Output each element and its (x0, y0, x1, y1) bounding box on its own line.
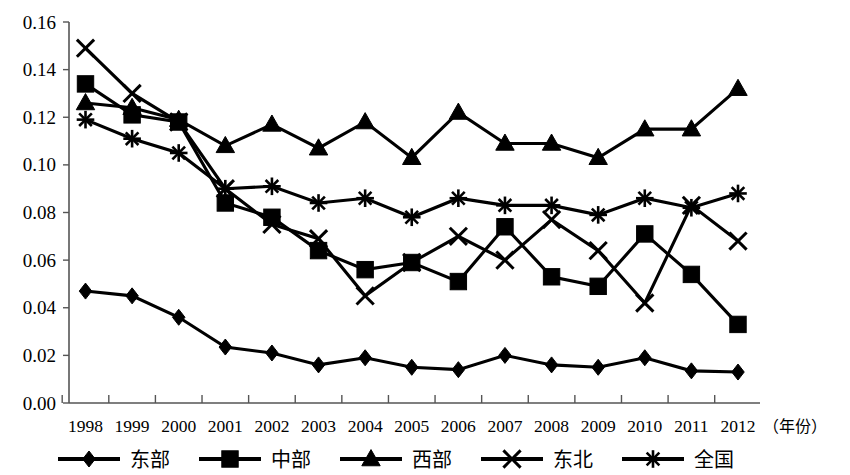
legend-item-西部[interactable]: 西部 (340, 449, 452, 471)
marker-diamond (126, 288, 138, 304)
marker-triangle (309, 139, 327, 155)
x-tick-label: 2011 (674, 416, 708, 436)
y-tick-label: 0.12 (23, 107, 56, 128)
x-tick-label: 2004 (348, 416, 383, 436)
legend-item-label: 中部 (271, 449, 311, 471)
marker-diamond (172, 309, 184, 325)
x-tick-label: 2007 (487, 416, 522, 436)
marker-square (590, 278, 606, 294)
series-东部 (79, 283, 744, 380)
marker-diamond (639, 350, 651, 366)
marker-diamond (266, 345, 278, 361)
marker-diamond (219, 339, 231, 355)
y-tick-label: 0.16 (23, 12, 56, 33)
x-tick-label: 2008 (534, 416, 569, 436)
x-tick-label: 2005 (394, 416, 429, 436)
x-tick-label: 2002 (254, 416, 289, 436)
marker-diamond (685, 363, 697, 379)
x-tick-label: 2012 (721, 416, 756, 436)
x-tick-label: 2001 (208, 416, 243, 436)
marker-square (357, 261, 373, 277)
x-tick-label: 2006 (441, 416, 476, 436)
x-axis (62, 395, 760, 403)
legend-item-label: 东部 (130, 449, 170, 471)
marker-diamond (406, 359, 418, 375)
legend-item-东部[interactable]: 东部 (58, 449, 170, 471)
marker-triangle (449, 103, 467, 119)
x-tick-label: 2000 (161, 416, 196, 436)
marker-triangle (356, 113, 374, 129)
marker-square (77, 76, 93, 92)
y-axis: 0.000.020.040.060.080.100.120.140.16 (23, 12, 69, 414)
marker-diamond (79, 283, 91, 299)
y-tick-label: 0.06 (23, 250, 56, 271)
y-tick-label: 0.10 (23, 154, 56, 175)
legend-item-label: 东北 (553, 449, 593, 471)
x-tick-label: 2009 (581, 416, 616, 436)
x-tick-labels: 1998199920002001200220032004200520062007… (68, 416, 827, 436)
marker-diamond (545, 357, 557, 373)
marker-diamond (732, 364, 744, 380)
legend-item-全国[interactable]: 全国 (622, 449, 734, 471)
legend-item-东北[interactable]: 东北 (481, 449, 593, 471)
marker-square (450, 273, 466, 289)
x-tick-label: 2003 (301, 416, 336, 436)
marker-diamond (312, 357, 324, 373)
marker-triangle (263, 115, 281, 131)
marker-diamond (592, 359, 604, 375)
legend-item-label: 全国 (694, 449, 734, 471)
marker-diamond (83, 451, 95, 467)
y-tick-label: 0.02 (23, 345, 56, 366)
marker-triangle (76, 94, 94, 110)
x-tick-label: 2010 (627, 416, 662, 436)
marker-diamond (452, 362, 464, 378)
marker-square (222, 451, 238, 467)
marker-triangle (729, 79, 747, 95)
marker-square (683, 266, 699, 282)
y-tick-label: 0.04 (23, 297, 57, 318)
chart-legend: 东部中部西部东北全国 (58, 449, 734, 471)
marker-square (543, 269, 559, 285)
legend-item-label: 西部 (412, 449, 452, 471)
x-axis-unit-label: （年份） (763, 418, 827, 435)
marker-diamond (359, 350, 371, 366)
y-tick-label: 0.14 (23, 59, 57, 80)
marker-square (730, 316, 746, 332)
series-layer (76, 40, 747, 380)
y-tick-label: 0.08 (23, 202, 56, 223)
chart-root: 0.000.020.040.060.080.100.120.140.16 199… (0, 0, 850, 475)
x-tick-label: 1999 (115, 416, 150, 436)
marker-diamond (499, 347, 511, 363)
legend-item-中部[interactable]: 中部 (199, 449, 311, 471)
marker-square (637, 226, 653, 242)
line-chart: 0.000.020.040.060.080.100.120.140.16 199… (0, 0, 850, 475)
marker-square (497, 219, 513, 235)
x-tick-label: 1998 (68, 416, 103, 436)
y-tick-label: 0.00 (23, 393, 56, 414)
